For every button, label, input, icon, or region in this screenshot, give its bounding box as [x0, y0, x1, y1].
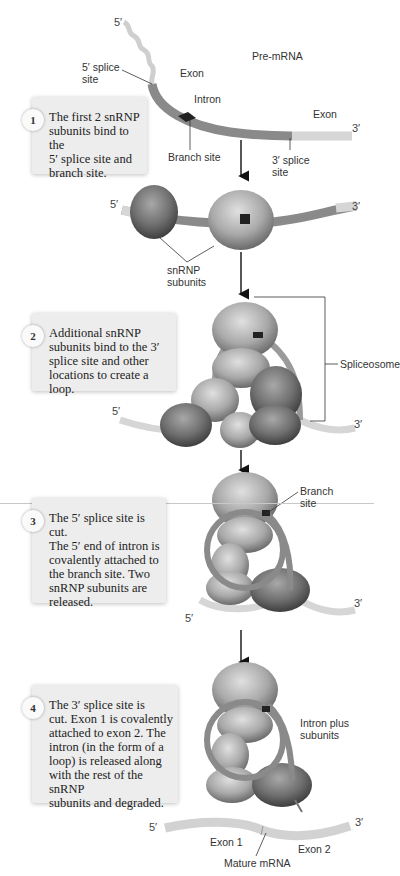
intron-plus-subunits-label: Intron plus subunits — [300, 717, 349, 741]
five-prime-label: 5′ — [114, 16, 122, 28]
exon1-label: Exon 1 — [210, 836, 243, 848]
exon-label-top: Exon — [180, 67, 204, 79]
exon-label-right: Exon — [313, 108, 337, 120]
stage-2-complex — [122, 185, 356, 262]
five-prime-label-5: 5′ — [149, 821, 157, 833]
pre-mrna-strand — [122, 22, 352, 150]
three-prime-splice-site-label: 3′ splice site — [272, 154, 310, 178]
snrnp-subunit-1 — [130, 185, 178, 239]
three-prime-label-4: 3′ — [354, 597, 362, 609]
step-1-text: The first 2 snRNP subunits bind to the 5… — [49, 110, 147, 180]
mature-mrna-label: Mature mRNA — [224, 857, 291, 869]
three-prime-label: 3′ — [352, 122, 360, 134]
excised-lariat — [206, 662, 312, 812]
three-prime-label-2: 3′ — [352, 200, 360, 212]
step-4-number: 4 — [22, 697, 44, 719]
branch-site-label: Branch site — [168, 151, 221, 163]
step-3-box: 3 The 5′ splice site is cut. The 5′ end … — [32, 498, 166, 603]
five-prime-splice-site-label: 5′ splice site — [82, 61, 120, 85]
five-prime-label-2: 5′ — [110, 198, 118, 210]
pre-mrna-title: Pre-mRNA — [252, 50, 303, 62]
five-prime-label-4: 5′ — [185, 612, 193, 624]
three-prime-label-5: 3′ — [355, 816, 363, 828]
intron-label: Intron — [194, 93, 221, 105]
step-1-number: 1 — [22, 109, 44, 131]
snrnp-subunits-label: snRNP subunits — [167, 264, 206, 288]
step-3-number: 3 — [22, 510, 44, 532]
step-3-text: The 5′ splice site is cut. The 5′ end of… — [49, 511, 166, 609]
step-2-text: Additional snRNP subunits bind to the 3′… — [49, 326, 176, 396]
step-2-number: 2 — [22, 325, 44, 347]
step-2-box: 2 Additional snRNP subunits bind to the … — [32, 313, 176, 391]
three-prime-label-3: 3′ — [354, 418, 362, 430]
spliceosome-label: Spliceosome — [340, 358, 400, 370]
branch-site-label-2: Branch site — [300, 485, 333, 509]
step-1-box: 1 The first 2 snRNP subunits bind to the… — [32, 97, 147, 174]
step-4-text: The 3′ splice site is cut. Exon 1 is cov… — [49, 698, 178, 810]
five-prime-label-3: 5′ — [112, 405, 120, 417]
exon2-label: Exon 2 — [298, 843, 331, 855]
step-4-box: 4 The 3′ splice site is cut. Exon 1 is c… — [32, 685, 178, 803]
